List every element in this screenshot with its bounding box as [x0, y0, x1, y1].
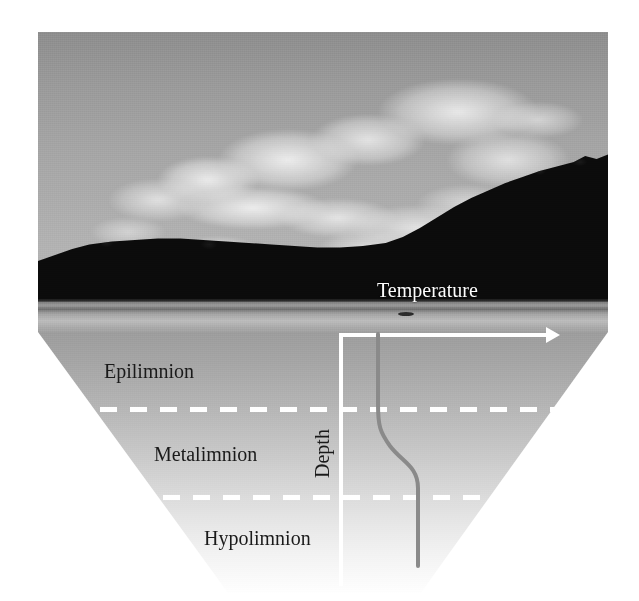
layer-label-metalimnion: Metalimnion: [154, 443, 257, 466]
boundary-metalimnion-hypolimnion: [133, 495, 515, 500]
lake-photograph: [38, 32, 608, 332]
film-grain-overlay: [38, 32, 608, 332]
temperature-depth-profile-curve: [350, 328, 450, 578]
layer-label-epilimnion: Epilimnion: [104, 360, 194, 383]
depth-axis-label: Depth: [311, 422, 334, 486]
temperature-axis-label: Temperature: [377, 279, 478, 302]
arrow-right-icon: [546, 327, 560, 343]
profile-path: [378, 334, 418, 566]
depth-axis-line: [339, 334, 343, 586]
boundary-epilimnion-metalimnion: [70, 407, 578, 412]
layer-label-hypolimnion: Hypolimnion: [204, 527, 311, 550]
figure-canvas: Temperature Depth Epilimnion Metalimnion…: [0, 0, 639, 601]
